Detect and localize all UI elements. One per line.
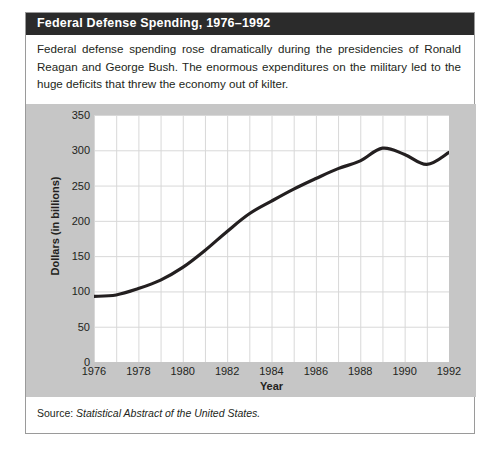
y-tick-label: 250 — [56, 181, 90, 192]
x-axis-tick-labels: 197619781980198219841986198819901992 — [94, 366, 449, 380]
source-title: Statistical Abstract of the United State… — [76, 407, 260, 419]
source-label: Source: — [37, 407, 73, 419]
figure-title-bar: Federal Defense Spending, 1976–1992 — [26, 13, 474, 35]
figure-description: Federal defense spending rose dramatical… — [37, 40, 461, 93]
x-tick-label: 1986 — [296, 366, 336, 377]
y-tick-label: 350 — [56, 110, 90, 121]
x-tick-label: 1982 — [207, 366, 247, 377]
x-axis-title: Year — [94, 380, 449, 392]
y-tick-label: 200 — [56, 216, 90, 227]
figure-container: Federal Defense Spending, 1976–1992 Fede… — [25, 12, 475, 434]
y-tick-label: 150 — [56, 251, 90, 262]
y-tick-label: 50 — [56, 322, 90, 333]
y-tick-label: 300 — [56, 145, 90, 156]
plot-area — [94, 115, 449, 362]
figure-title: Federal Defense Spending, 1976–1992 — [37, 16, 271, 30]
x-tick-label: 1992 — [429, 366, 469, 377]
source-note: Source: Statistical Abstract of the Unit… — [37, 407, 260, 419]
y-tick-label: 100 — [56, 286, 90, 297]
y-axis-title: Dollars (in billions) — [49, 141, 61, 311]
x-tick-label: 1980 — [163, 366, 203, 377]
x-tick-label: 1978 — [118, 366, 158, 377]
x-tick-label: 1988 — [340, 366, 380, 377]
x-tick-label: 1984 — [252, 366, 292, 377]
x-tick-label: 1990 — [385, 366, 425, 377]
x-tick-label: 1976 — [74, 366, 114, 377]
chart-svg — [94, 115, 449, 362]
chart-panel: 050100150200250300350 197619781980198219… — [26, 104, 476, 397]
